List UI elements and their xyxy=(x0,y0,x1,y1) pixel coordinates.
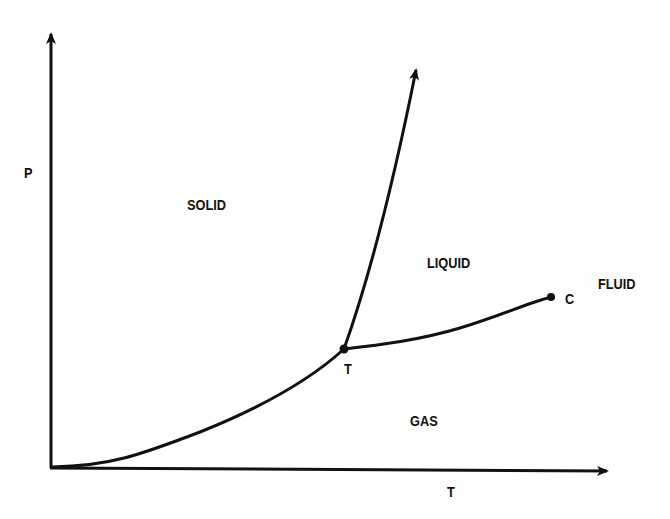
sublimation-curve xyxy=(52,349,344,467)
region-solid-label: SOLID xyxy=(187,197,226,212)
x-axis xyxy=(50,468,607,471)
region-liquid-label: LIQUID xyxy=(427,255,470,270)
x-axis-label: T xyxy=(447,484,455,499)
phase-diagram: P T SOLID LIQUID GAS FLUID T C xyxy=(0,0,670,519)
diagram-graphics xyxy=(0,0,670,519)
melting-curve xyxy=(344,70,416,349)
y-axis-label: P xyxy=(24,165,33,180)
triple-point-marker xyxy=(340,345,349,354)
critical-point-label: C xyxy=(565,291,574,306)
critical-point-marker xyxy=(547,293,555,301)
triple-point-label: T xyxy=(344,361,352,376)
vaporization-curve xyxy=(344,297,551,349)
region-gas-label: GAS xyxy=(410,413,438,428)
region-fluid-label: FLUID xyxy=(598,276,636,291)
